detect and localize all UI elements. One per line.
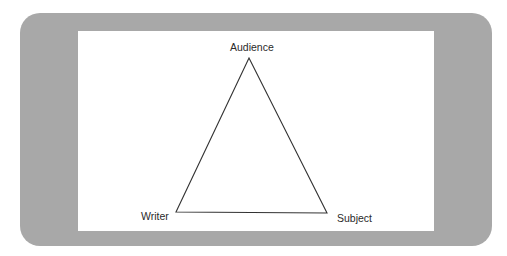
triangle-diagram [0, 0, 507, 256]
node-label-audience: Audience [230, 42, 274, 53]
node-label-subject: Subject [337, 213, 372, 224]
node-label-writer: Writer [141, 211, 169, 222]
triangle-shape [176, 58, 327, 213]
